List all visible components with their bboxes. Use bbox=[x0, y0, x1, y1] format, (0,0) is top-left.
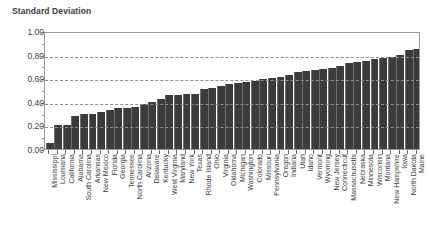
x-axis-category-label: Nebraska bbox=[359, 154, 366, 184]
bar bbox=[405, 50, 413, 149]
gridline bbox=[45, 57, 419, 58]
x-axis-category-label: Louisiana bbox=[59, 154, 66, 184]
bar bbox=[80, 114, 88, 149]
bar bbox=[251, 81, 259, 149]
bar bbox=[242, 82, 250, 149]
bar bbox=[191, 94, 199, 149]
bar bbox=[336, 66, 344, 149]
x-axis-category-label: Pennsylvania bbox=[273, 154, 280, 196]
bar bbox=[208, 88, 216, 149]
x-axis-labels: MississippiLouisianaCaliforniaAlabamaSou… bbox=[44, 154, 420, 235]
x-axis-category-label: Texas bbox=[196, 154, 203, 172]
standard-deviation-bar-chart: Standard Deviation 0.000.200.400.600.801… bbox=[0, 0, 427, 235]
x-axis-category-label: Colorado bbox=[256, 154, 263, 182]
bar bbox=[353, 62, 361, 149]
x-axis-category-label: West Virginia bbox=[171, 154, 178, 195]
plot-area bbox=[44, 32, 420, 150]
x-axis-category-label: Minnesota bbox=[367, 154, 374, 186]
bar bbox=[200, 89, 208, 149]
x-axis-category-label: New Mexico bbox=[102, 154, 109, 192]
x-axis-category-label: Mississippi bbox=[51, 154, 58, 188]
x-axis-category-label: Oregon bbox=[282, 154, 289, 177]
y-axis: 0.000.200.400.600.801.00 bbox=[0, 32, 44, 150]
x-axis-category-label: North Carolina bbox=[136, 154, 143, 199]
bar bbox=[148, 102, 156, 149]
x-axis-category-label: Vermont bbox=[316, 154, 323, 180]
x-axis-category-label: Georgia bbox=[119, 154, 126, 179]
x-axis-category-label: Ohio bbox=[213, 154, 220, 169]
y-axis-tick-label: 0.00 bbox=[6, 145, 44, 155]
y-axis-tick-label: 0.20 bbox=[6, 121, 44, 131]
bar bbox=[183, 94, 191, 149]
x-axis-category-label: Oklahoma bbox=[230, 154, 237, 186]
bar bbox=[71, 116, 79, 149]
x-axis-category-label: South Carolina bbox=[85, 154, 92, 200]
bar bbox=[259, 79, 267, 149]
x-axis-category-label: New Hampshire bbox=[393, 154, 400, 204]
bar bbox=[285, 75, 293, 149]
bar bbox=[302, 71, 310, 149]
x-axis-category-label: Massachusetts bbox=[350, 154, 357, 201]
x-axis-category-label: Missouri bbox=[265, 154, 272, 180]
x-axis-category-label: New Jersey bbox=[333, 154, 340, 191]
x-axis-category-label: Indiana bbox=[290, 154, 297, 177]
bar bbox=[234, 83, 242, 149]
bar bbox=[97, 112, 105, 149]
x-axis-category-label: Montana bbox=[384, 154, 391, 181]
bar bbox=[157, 99, 165, 149]
x-axis-category-label: Virginia bbox=[222, 154, 229, 177]
x-axis-category-label: Arizona bbox=[145, 154, 152, 178]
x-axis-category-label: Michigan bbox=[239, 154, 246, 182]
bars-layer bbox=[45, 33, 419, 149]
x-axis-category-label: Connecticut bbox=[341, 154, 348, 191]
x-axis-category-label: Idaho bbox=[307, 154, 314, 172]
x-axis-category-label: Alabama bbox=[77, 154, 84, 182]
x-axis-category-label: Maine bbox=[418, 154, 425, 173]
y-axis-tick-label: 0.80 bbox=[6, 51, 44, 61]
x-axis-category-label: California bbox=[68, 154, 75, 184]
x-axis-category-label: Utah bbox=[299, 154, 306, 169]
gridline bbox=[45, 127, 419, 128]
y-axis-tick-label: 1.00 bbox=[6, 27, 44, 37]
bar bbox=[413, 49, 420, 149]
x-axis-category-label: Tennessee bbox=[128, 154, 135, 188]
x-axis-category-label: Kentucky bbox=[162, 154, 169, 183]
x-axis-category-label: Rhode Island bbox=[205, 154, 212, 195]
x-axis-category-label: Wisconsin bbox=[376, 154, 383, 186]
bar bbox=[106, 110, 114, 149]
bar bbox=[311, 70, 319, 149]
bar bbox=[225, 84, 233, 149]
bar bbox=[217, 86, 225, 149]
bar bbox=[345, 63, 353, 149]
bar bbox=[396, 55, 404, 149]
gridline bbox=[45, 80, 419, 81]
bar bbox=[294, 72, 302, 149]
x-axis-category-label: New York bbox=[188, 154, 195, 184]
bar bbox=[63, 125, 71, 149]
y-axis-tick-label: 0.60 bbox=[6, 74, 44, 84]
chart-title: Standard Deviation bbox=[12, 6, 91, 16]
bar bbox=[268, 78, 276, 149]
bar bbox=[46, 143, 54, 149]
gridline bbox=[45, 104, 419, 105]
x-axis-category-label: Maryland bbox=[179, 154, 186, 183]
bar bbox=[89, 114, 97, 149]
bar bbox=[54, 125, 62, 149]
x-axis-category-label: Arkansas bbox=[94, 154, 101, 183]
bar bbox=[277, 77, 285, 149]
x-axis-category-label: Wyoming bbox=[324, 154, 331, 183]
y-axis-tick-label: 0.40 bbox=[6, 98, 44, 108]
x-axis-category-label: North Dakota bbox=[410, 154, 417, 195]
x-axis-category-label: Florida bbox=[111, 154, 118, 175]
x-axis-category-label: Washington bbox=[247, 154, 254, 191]
x-axis-category-label: Iowa bbox=[401, 154, 408, 169]
x-axis-category-label: Delaware bbox=[153, 154, 160, 184]
